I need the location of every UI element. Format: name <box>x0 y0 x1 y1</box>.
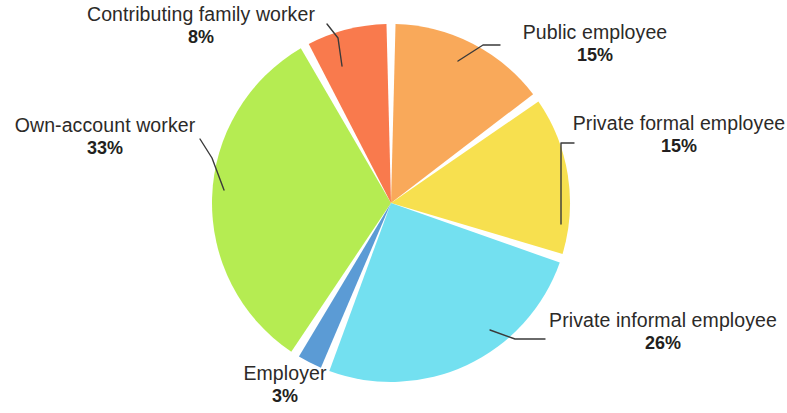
pie-label-contributing-family-worker: Contributing family worker 8% <box>58 4 344 47</box>
pie-label-percent: 3% <box>215 386 355 406</box>
pie-label-name: Private informal employee <box>540 310 786 332</box>
pie-chart-figure: Contributing family worker 8% Own-accoun… <box>0 0 787 413</box>
pie-label-public-employee: Public employee 15% <box>500 22 690 65</box>
pie-label-private-informal-employee: Private informal employee 26% <box>540 310 786 353</box>
pie-label-percent: 26% <box>540 333 786 353</box>
pie-label-percent: 8% <box>58 27 344 47</box>
pie-label-name: Private formal employee <box>570 113 787 135</box>
pie-label-name: Own-account worker <box>0 115 210 137</box>
pie-label-percent: 33% <box>0 138 210 158</box>
pie-label-private-formal-employee: Private formal employee 15% <box>570 113 787 156</box>
pie-slice-group <box>212 24 570 382</box>
pie-label-name: Employer <box>215 363 355 385</box>
pie-label-percent: 15% <box>500 45 690 65</box>
pie-label-name: Public employee <box>500 22 690 44</box>
pie-label-own-account-worker: Own-account worker 33% <box>0 115 210 158</box>
pie-label-percent: 15% <box>570 136 787 156</box>
pie-label-employer: Employer 3% <box>215 363 355 406</box>
pie-label-name: Contributing family worker <box>58 4 344 26</box>
